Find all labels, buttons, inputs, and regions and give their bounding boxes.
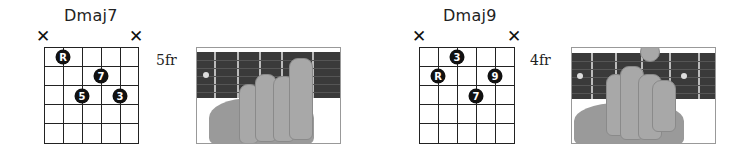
chord-title: Dmaj9 (443, 6, 497, 25)
finger-dot-seventh: 7 (469, 89, 484, 104)
finger-dot-seventh: 7 (94, 69, 109, 84)
fret-position-label: 4fr (530, 52, 551, 68)
fret-position-label: 5fr (156, 52, 177, 68)
chord-title: Dmaj7 (64, 6, 118, 25)
hand-fretting-photo (571, 47, 716, 144)
mute-x-icon: ✕ (412, 28, 426, 45)
finger-dot-fifth: 5 (75, 89, 90, 104)
finger-dot-root: R (56, 50, 71, 65)
chord-grid (419, 47, 515, 144)
mute-x-icon: ✕ (36, 28, 50, 45)
finger-dot-third: 3 (113, 89, 128, 104)
mute-x-icon: ✕ (129, 28, 143, 45)
finger-dot-ninth: 9 (488, 69, 503, 84)
finger-dot-root: R (431, 69, 446, 84)
finger-dot-third: 3 (450, 50, 465, 65)
hand-fretting-photo (196, 47, 341, 144)
mute-x-icon: ✕ (507, 28, 521, 45)
